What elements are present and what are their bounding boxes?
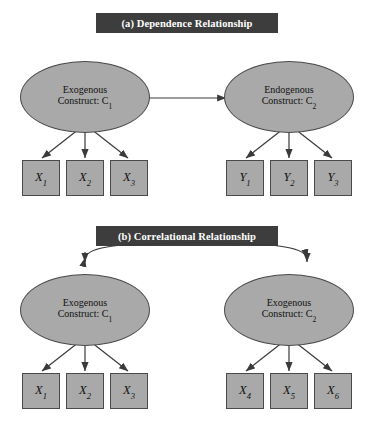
construct-node-exogenous-c1-panel-a[interactable]: Exogenous Construct: C1 xyxy=(20,61,150,133)
indicator-box[interactable]: X1 xyxy=(22,160,60,196)
panel-a-right-measurement-arrows xyxy=(246,129,332,158)
indicator-box[interactable]: X1 xyxy=(22,373,60,409)
construct-line1: Exogenous xyxy=(63,84,107,96)
indicator-box[interactable]: X5 xyxy=(270,373,308,409)
construct-line2: Construct: C2 xyxy=(262,95,317,110)
panel-b-right-measurement-arrows xyxy=(246,342,332,371)
panel-a-left-measurement-arrows xyxy=(42,129,128,158)
construct-node-endogenous-c2-panel-a[interactable]: Endogenous Construct: C2 xyxy=(224,61,354,133)
indicator-label: X2 xyxy=(79,170,91,187)
construct-line1: Exogenous xyxy=(63,297,107,309)
indicator-label: X1 xyxy=(35,170,47,187)
indicator-label: X3 xyxy=(123,383,135,400)
construct-line2: Construct: C1 xyxy=(58,308,113,323)
indicator-box[interactable]: Y1 xyxy=(226,160,264,196)
indicator-label: X2 xyxy=(79,383,91,400)
indicator-box[interactable]: X6 xyxy=(314,373,352,409)
panel-b-title-label: (b) Correlational Relationship xyxy=(118,231,256,242)
construct-line2: Construct: C2 xyxy=(262,308,317,323)
indicator-label: X6 xyxy=(327,383,339,400)
construct-node-exogenous-c2-panel-b[interactable]: Exogenous Construct: C2 xyxy=(224,274,354,346)
indicator-box[interactable]: X2 xyxy=(66,373,104,409)
construct-line1: Exogenous xyxy=(267,297,311,309)
indicator-label: Y1 xyxy=(239,170,250,187)
indicator-label: Y2 xyxy=(283,170,294,187)
indicator-label: X4 xyxy=(239,383,251,400)
construct-line1: Endogenous xyxy=(264,84,313,96)
panel-b-title-bar: (b) Correlational Relationship xyxy=(96,226,278,246)
indicator-box[interactable]: X4 xyxy=(226,373,264,409)
indicator-label: X5 xyxy=(283,383,295,400)
construct-node-exogenous-c1-panel-b[interactable]: Exogenous Construct: C1 xyxy=(20,274,150,346)
construct-line2: Construct: C1 xyxy=(58,95,113,110)
indicator-box[interactable]: Y3 xyxy=(314,160,352,196)
structural-model-figure: (a) Dependence Relationship Exogenous Co… xyxy=(0,0,374,426)
indicator-box[interactable]: X3 xyxy=(110,373,148,409)
indicator-label: Y3 xyxy=(327,170,338,187)
indicator-label: X1 xyxy=(35,383,47,400)
indicator-box[interactable]: X2 xyxy=(66,160,104,196)
indicator-box[interactable]: Y2 xyxy=(270,160,308,196)
panel-a-title-bar: (a) Dependence Relationship xyxy=(96,13,278,33)
panel-b-left-measurement-arrows xyxy=(42,342,128,371)
indicator-label: X3 xyxy=(123,170,135,187)
panel-a-title-label: (a) Dependence Relationship xyxy=(121,18,252,29)
indicator-box[interactable]: X3 xyxy=(110,160,148,196)
